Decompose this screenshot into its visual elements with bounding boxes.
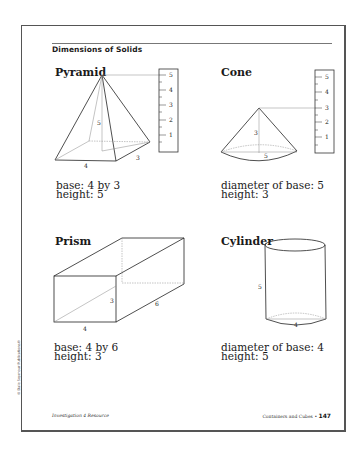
footer-left: Investigation 4 Resource — [52, 413, 109, 418]
footer-book-title: Containers and Cubes — [262, 414, 313, 419]
cylinder-diameter-label: 4 — [294, 321, 298, 328]
cylinder-height-text: height: 5 — [221, 352, 269, 361]
page-number: 147 — [318, 412, 331, 419]
cylinder-height-label: 5 — [258, 283, 262, 290]
cylinder-figure: 5 4 — [0, 0, 364, 457]
footer-bullet: • — [314, 414, 317, 419]
footer-right: Containers and Cubes • 147 — [262, 412, 331, 419]
copyright-notice: © Dale Seymour Publications® — [17, 340, 21, 395]
